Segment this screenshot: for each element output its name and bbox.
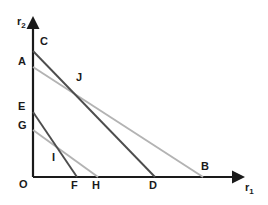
line-AB xyxy=(33,67,203,177)
line-EF xyxy=(33,112,77,177)
y-axis-label: r2 xyxy=(17,16,26,30)
label-A: A xyxy=(18,56,26,67)
label-H: H xyxy=(92,180,100,191)
line-GH xyxy=(33,130,98,177)
label-F: F xyxy=(71,180,78,191)
label-B: B xyxy=(201,161,209,172)
label-J: J xyxy=(76,72,82,83)
label-G: G xyxy=(18,120,27,131)
x-axis-label-sub: 1 xyxy=(249,187,253,196)
label-E: E xyxy=(18,101,25,112)
x-axis-label: r1 xyxy=(245,182,254,196)
label-I: I xyxy=(52,152,55,163)
diagram-svg xyxy=(0,0,268,205)
label-C: C xyxy=(40,36,48,47)
figure-canvas: r2 r1 C A J E G I O F H D B xyxy=(0,0,268,205)
y-axis-label-sub: 2 xyxy=(21,21,25,30)
label-O: O xyxy=(19,179,28,190)
label-D: D xyxy=(149,180,157,191)
